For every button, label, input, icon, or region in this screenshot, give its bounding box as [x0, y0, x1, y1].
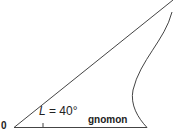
- origin-label: 0: [1, 121, 7, 131]
- angle-symbol: L: [39, 104, 46, 118]
- angle-label: L = 40°: [39, 105, 78, 117]
- angle-value: = 40°: [46, 104, 78, 118]
- gnomon-curve: [132, 12, 172, 128]
- gnomon-label: gnomon: [88, 115, 127, 125]
- hypotenuse-line: [14, 0, 173, 128]
- gnomon-diagram: [0, 0, 173, 133]
